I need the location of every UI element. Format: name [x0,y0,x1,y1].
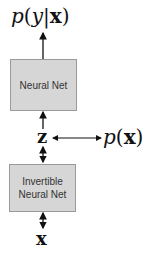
p-symbol: p [11,4,24,28]
density-label-p-x: p(x) [103,125,143,149]
x-symbol: x [124,125,136,149]
x-symbol: x [50,4,62,28]
y-symbol: y [32,4,43,28]
invertible-neural-net-box: Invertible Neural Net [9,164,76,212]
neural-net-label: Neural Net [20,79,68,92]
paren-open: ( [116,125,124,149]
neural-net-label: Neural Net [19,188,67,201]
input-x-label: x [36,228,47,249]
p-symbol: p [103,125,116,149]
latent-z-label: z [37,126,47,147]
paren-close: ) [136,125,144,149]
neural-net-box: Neural Net [10,59,77,111]
output-label-p-y-given-x: p(y|x) [11,4,69,28]
paren-open: ( [24,4,32,28]
given-bar: | [43,4,50,28]
invertible-label: Invertible [22,175,63,188]
paren-close: ) [62,4,70,28]
